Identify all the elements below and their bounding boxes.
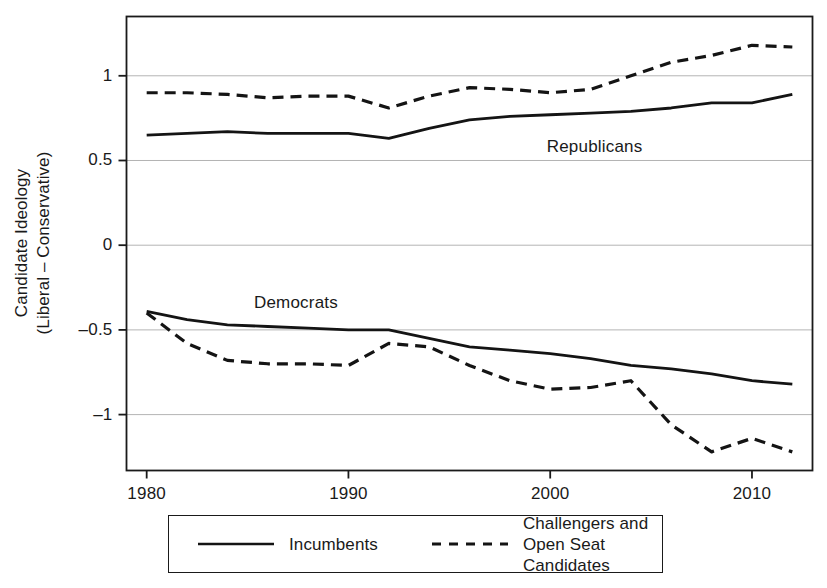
legend-swatch-dashed-line	[431, 537, 509, 551]
y-tick-label-1: 0.5	[52, 150, 113, 170]
plot-area	[0, 0, 827, 588]
x-tick-label-1: 1990	[329, 484, 368, 504]
y-tick-label-4: –1	[52, 405, 113, 425]
x-tick-label-2: 2000	[531, 484, 570, 504]
y-tick-label-2: 0	[52, 235, 113, 255]
chart-legend: Incumbents Challengers and Open Seat Can…	[168, 515, 663, 573]
series-annotation-democrats: Democrats	[254, 293, 338, 313]
x-tick-label-3: 2010	[733, 484, 772, 504]
plot-frame	[127, 17, 813, 471]
series-line-2	[147, 311, 793, 384]
legend-swatch-solid-line	[197, 537, 275, 551]
legend-label-incumbents: Incumbents	[289, 534, 378, 555]
y-tick-label-0: 1	[52, 66, 113, 86]
chart-figure: Candidate Ideology (Liberal – Conservati…	[0, 0, 827, 588]
y-tick-label-3: –0.5	[52, 320, 113, 340]
series-line-0	[147, 94, 793, 138]
legend-label-challengers: Challengers and Open Seat Candidates	[523, 513, 662, 576]
legend-entry-challengers: Challengers and Open Seat Candidates	[431, 516, 662, 572]
series-annotation-republicans: Republicans	[547, 137, 643, 157]
x-tick-label-0: 1980	[127, 484, 166, 504]
series-line-1	[147, 45, 793, 108]
series-line-3	[147, 313, 793, 452]
legend-entry-incumbents: Incumbents	[197, 516, 378, 572]
